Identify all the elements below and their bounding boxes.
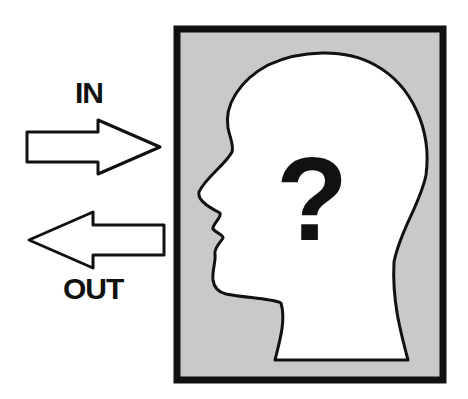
right-arrow-icon xyxy=(27,120,160,174)
left-arrow-icon xyxy=(29,212,164,268)
in-label: IN xyxy=(75,76,103,110)
out-label: OUT xyxy=(63,272,123,306)
diagram-canvas xyxy=(0,0,468,399)
question-mark: ? xyxy=(276,140,348,258)
